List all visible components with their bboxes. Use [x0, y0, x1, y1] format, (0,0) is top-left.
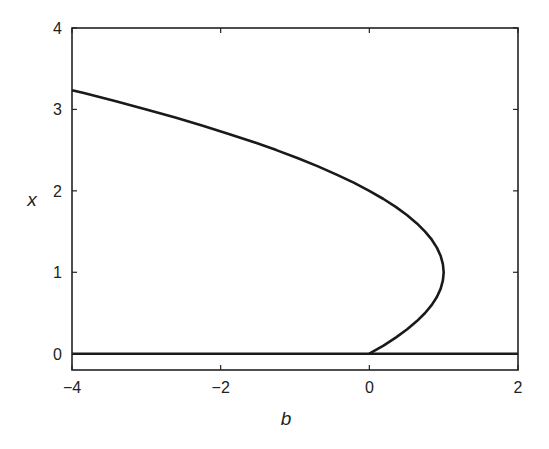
y-tick-label: 2 — [53, 183, 62, 200]
axes-frame — [72, 28, 518, 370]
series-line-1 — [72, 90, 444, 354]
y-tick-label: 3 — [53, 101, 62, 118]
x-tick-label: −2 — [212, 379, 230, 396]
x-tick-label: 2 — [514, 379, 523, 396]
chart: −4−20201234 b x — [0, 0, 549, 449]
y-tick-label: 1 — [53, 264, 62, 281]
plot-area — [72, 28, 518, 370]
x-axis-label: b — [281, 408, 292, 429]
y-axis-label: x — [26, 189, 38, 210]
axis-ticks: −4−20201234 — [53, 20, 522, 396]
y-tick-label: 0 — [53, 346, 62, 363]
x-tick-label: 0 — [365, 379, 374, 396]
y-tick-label: 4 — [53, 20, 62, 37]
x-tick-label: −4 — [63, 379, 81, 396]
